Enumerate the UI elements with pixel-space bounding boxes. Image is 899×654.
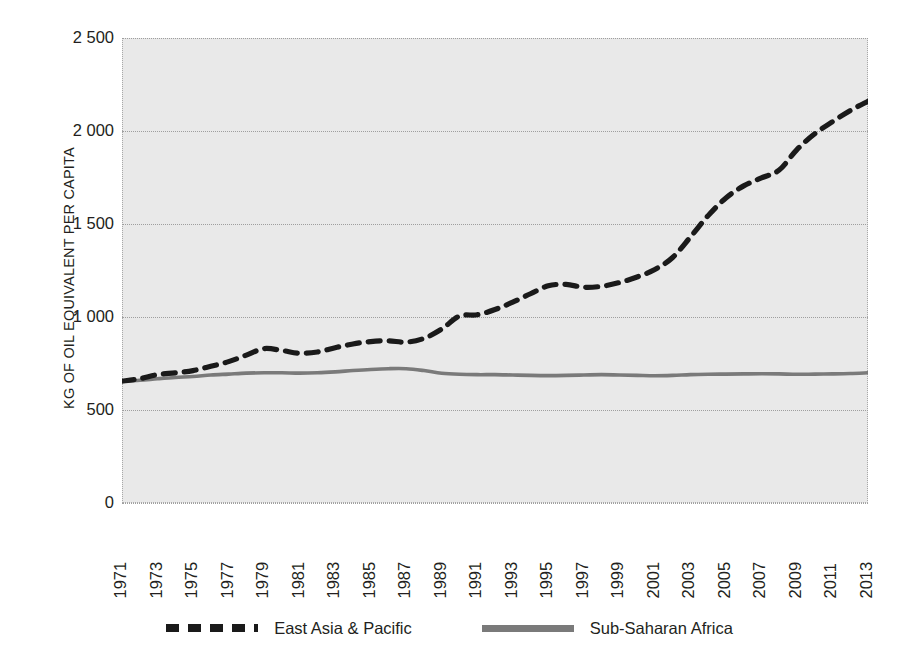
x-tick-label: 1995	[538, 561, 555, 598]
line-chart: KG OF OIL EQUIVALENT PER CAPITA 05001 00…	[0, 0, 899, 654]
legend-dashed-line-icon	[166, 624, 258, 632]
x-tick-label: 1973	[147, 561, 164, 598]
legend-label: Sub-Saharan Africa	[590, 619, 733, 638]
plot-area	[122, 38, 868, 503]
legend-solid-line-icon	[482, 625, 574, 632]
x-tick-label: 2009	[786, 561, 803, 598]
x-tick-label: 2003	[680, 561, 697, 598]
legend-item[interactable]: East Asia & Pacific	[166, 619, 412, 638]
y-axis-tick-labels: 05001 0001 5002 0002 500	[42, 0, 114, 654]
x-tick-label: 2013	[858, 561, 875, 598]
y-tick-label: 0	[44, 494, 114, 511]
series-line	[122, 101, 868, 381]
x-tick-label: 1985	[360, 561, 377, 598]
legend-item[interactable]: Sub-Saharan Africa	[482, 619, 733, 638]
x-tick-label: 2005	[715, 561, 732, 598]
x-tick-label: 1991	[467, 561, 484, 598]
y-tick-label: 500	[44, 401, 114, 418]
x-tick-label: 1987	[396, 561, 413, 598]
x-tick-label: 1971	[112, 561, 129, 598]
y-tick-label: 1 000	[44, 308, 114, 325]
x-tick-label: 1975	[183, 561, 200, 598]
y-tick-label: 1 500	[44, 215, 114, 232]
x-tick-label: 1983	[325, 561, 342, 598]
x-tick-label: 1977	[218, 561, 235, 598]
chart-legend: East Asia & PacificSub-Saharan Africa	[0, 608, 899, 648]
x-tick-label: 1979	[254, 561, 271, 598]
x-tick-label: 2007	[751, 561, 768, 598]
x-tick-label: 1999	[609, 561, 626, 598]
series-container	[122, 38, 868, 503]
legend-label: East Asia & Pacific	[274, 619, 412, 638]
series-line	[122, 369, 868, 382]
x-tick-label: 1993	[502, 561, 519, 598]
x-tick-label: 2001	[644, 561, 661, 598]
x-tick-label: 1989	[431, 561, 448, 598]
x-tick-label: 1981	[289, 561, 306, 598]
y-tick-label: 2 000	[44, 122, 114, 139]
x-tick-label: 1997	[573, 561, 590, 598]
x-tick-label: 2011	[822, 563, 839, 598]
x-axis-tick-labels: 1971197319751977197919811983198519871989…	[122, 503, 868, 598]
y-tick-label: 2 500	[44, 29, 114, 46]
